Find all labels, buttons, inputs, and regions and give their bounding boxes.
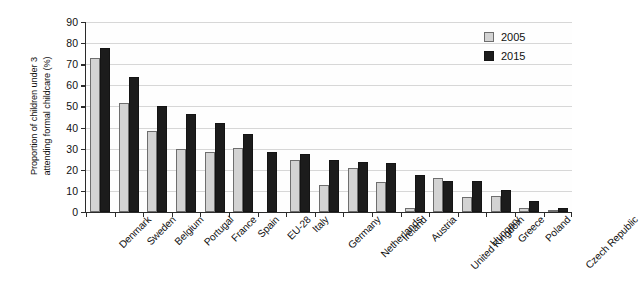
x-tick-mark <box>571 212 572 217</box>
bar-2005 <box>548 210 558 212</box>
legend-item-2015: 2015 <box>484 46 570 65</box>
x-axis-label: Germany <box>346 214 383 251</box>
bar-2005 <box>290 160 300 212</box>
bar-2005 <box>519 208 529 212</box>
bar-2015 <box>358 162 368 212</box>
bar-group <box>372 22 401 212</box>
x-axis-label: Hungary <box>488 214 522 248</box>
bar-2005 <box>433 178 443 212</box>
bar-2005 <box>348 168 358 212</box>
bar-group <box>401 22 430 212</box>
x-axis-label: Czech Republic <box>583 214 640 271</box>
x-axis-label: EU-28 <box>285 214 313 242</box>
chart-legend: 2005 2015 <box>484 27 570 65</box>
y-tick-label: 40 <box>66 122 78 134</box>
x-axis-labels: DenmarkSwedenBelgiumPortugalFranceSpainE… <box>85 214 571 304</box>
legend-label-2015: 2015 <box>501 50 525 62</box>
bar-2015 <box>129 77 139 212</box>
bar-2015 <box>558 208 568 212</box>
x-axis-label: Austria <box>429 214 458 243</box>
bar-2015 <box>329 160 339 212</box>
bar-group <box>343 22 372 212</box>
bar-2005 <box>376 182 386 212</box>
bar-2005 <box>205 152 215 212</box>
x-axis-label: Belgium <box>173 214 206 247</box>
bar-2005 <box>90 58 100 212</box>
bar-2015 <box>186 114 196 212</box>
y-tick-label: 30 <box>66 143 78 155</box>
legend-swatch-2015-icon <box>484 51 494 61</box>
y-tick-label: 20 <box>66 164 78 176</box>
x-axis-label: Poland <box>543 214 573 244</box>
bar-group <box>143 22 172 212</box>
bar-2005 <box>176 149 186 212</box>
bar-2015 <box>529 201 539 212</box>
bar-group <box>286 22 315 212</box>
bar-2015 <box>215 123 225 212</box>
bar-2015 <box>415 175 425 212</box>
bar-2005 <box>405 208 415 212</box>
y-tick-label: 90 <box>66 16 78 28</box>
y-axis-title: Proportion of children under 3 attending… <box>14 18 44 214</box>
bar-2015 <box>386 163 396 212</box>
bar-group <box>115 22 144 212</box>
x-axis-label: Italy <box>311 214 331 234</box>
bar-group <box>458 22 487 212</box>
legend-swatch-2005-icon <box>484 32 494 42</box>
bar-2015 <box>300 154 310 212</box>
bar-2015 <box>501 190 511 212</box>
bar-group <box>172 22 201 212</box>
y-tick-label: 50 <box>66 100 78 112</box>
bar-group <box>229 22 258 212</box>
x-axis-label: Portugal <box>202 214 236 248</box>
bar-2005 <box>147 131 157 212</box>
bar-group <box>429 22 458 212</box>
bar-group <box>86 22 115 212</box>
y-tick-label: 80 <box>66 37 78 49</box>
bar-2005 <box>233 148 243 212</box>
bar-2005 <box>119 103 129 212</box>
y-tick-label: 10 <box>66 185 78 197</box>
x-axis-label: Denmark <box>117 214 153 250</box>
bar-2005 <box>491 196 501 212</box>
bar-group <box>200 22 229 212</box>
bar-2015 <box>443 181 453 212</box>
bar-2015 <box>100 48 110 212</box>
legend-label-2005: 2005 <box>501 31 525 43</box>
bar-2015 <box>243 134 253 212</box>
y-tick-label: 70 <box>66 58 78 70</box>
bar-2015 <box>267 152 277 212</box>
y-tick-label: 60 <box>66 79 78 91</box>
bar-group <box>315 22 344 212</box>
bar-2015 <box>157 106 167 212</box>
bar-2005 <box>462 197 472 212</box>
bar-2005 <box>319 185 329 212</box>
bar-group <box>258 22 287 212</box>
legend-item-2005: 2005 <box>484 27 570 46</box>
bar-2015 <box>472 181 482 212</box>
y-tick-label: 0 <box>72 206 78 218</box>
x-axis-label: Spain <box>256 214 282 240</box>
